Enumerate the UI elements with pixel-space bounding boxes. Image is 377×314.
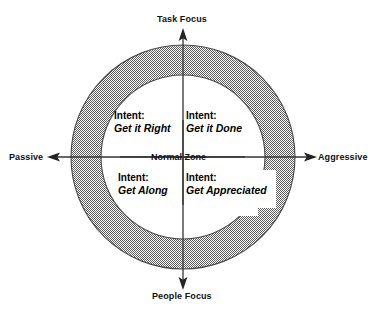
quadrant-top-right: Intent: Get it Done [186, 110, 242, 135]
axis-label-passive: Passive [9, 152, 43, 162]
quadrant-top-right-intent-value: Get it Done [186, 122, 242, 135]
axis-label-aggressive: Aggressive [318, 152, 368, 162]
behavior-zone-diagram: Task Focus Aggressive People Focus Passi… [0, 0, 377, 314]
quadrant-bottom-left-intent-value: Get Along [118, 184, 168, 197]
quadrant-top-left-intent-value: Get it Right [114, 122, 171, 135]
quadrant-bottom-left: Intent: Get Along [118, 172, 168, 197]
axis-label-task-focus: Task Focus [157, 14, 207, 24]
quadrant-bottom-left-intent-word: Intent: [118, 172, 168, 184]
quadrant-top-left: Intent: Get it Right [114, 110, 171, 135]
quadrant-top-right-intent-word: Intent: [186, 110, 242, 122]
axis-label-people-focus: People Focus [152, 291, 212, 301]
quadrant-bottom-right: Intent: Get Appreciated [186, 172, 267, 197]
quadrant-bottom-right-intent-value: Get Appreciated [186, 184, 267, 197]
quadrant-bottom-right-intent-word: Intent: [186, 172, 267, 184]
center-label-normal-zone: Normal Zone [151, 152, 206, 162]
quadrant-top-left-intent-word: Intent: [114, 110, 171, 122]
